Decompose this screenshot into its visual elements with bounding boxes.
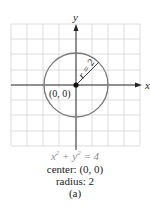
center-caption: center: (0, 0) [0,163,150,175]
y-axis-label: y [72,11,78,23]
panel-label: (a) [0,187,150,199]
center-point [73,82,78,87]
circle-graph: x y r = 2 (0, 0) [0,0,150,150]
radius-caption: radius: 2 [0,175,150,187]
radius-label: r = 2 [76,57,97,80]
center-label: (0, 0) [49,88,71,100]
x-axis-arrow-icon [135,83,142,88]
y-axis-arrow-icon [74,24,79,31]
x-axis-label: x [144,79,150,91]
y-axis: y [72,11,79,150]
equation-caption: x2 + y2 = 4 [0,150,150,162]
